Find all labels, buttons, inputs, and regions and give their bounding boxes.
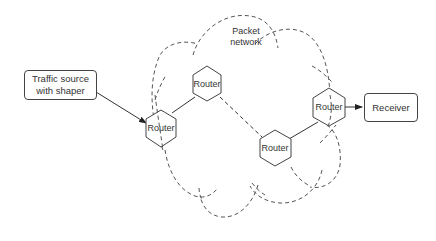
receiver-label: Receiver [372,102,410,114]
routers [146,66,345,166]
router-2-label: Router [190,79,224,89]
packet-network-label-line1: Packet [226,26,266,37]
traffic-source-line2: with shaper [32,85,89,97]
packet-network-label: Packet network [226,26,266,48]
traffic-source-line1: Traffic source [32,73,89,85]
router-3-label: Router [258,143,292,153]
router-1-label: Router [144,123,178,133]
traffic-source-box[interactable]: Traffic source with shaper [24,70,97,100]
link-router3-router4 [289,122,318,139]
router-4-label: Router [312,102,346,112]
packet-network-label-line2: network [226,37,266,48]
link-router2-router3 [220,97,262,137]
link-source-router1 [96,92,146,123]
link-router1-router2 [172,97,195,113]
cloud-overlap [155,95,331,150]
receiver-box[interactable]: Receiver [364,93,418,122]
